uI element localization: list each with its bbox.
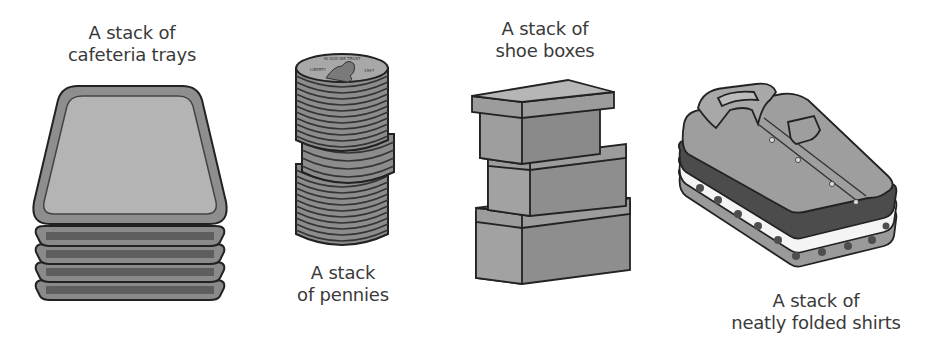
trays-caption-line-2: cafeteria trays xyxy=(52,44,212,66)
pennies-caption: A stack of pennies xyxy=(288,262,398,306)
penny-motto: IN GOD WE TRUST xyxy=(324,56,361,61)
shoe-boxes-illustration xyxy=(470,78,635,288)
folded-shirts-illustration xyxy=(672,80,902,276)
shirts-caption: A stack of neatly folded shirts xyxy=(716,290,916,334)
pennies-illustration: IN GOD WE TRUST LIBERTY 1997 xyxy=(290,52,400,252)
pennies-caption-line-1: A stack xyxy=(288,262,398,284)
shirts-caption-line-1: A stack of xyxy=(716,290,916,312)
shoe-boxes-caption: A stack of shoe boxes xyxy=(485,18,605,62)
pennies-caption-line-2: of pennies xyxy=(288,284,398,306)
shoe-boxes-caption-line-2: shoe boxes xyxy=(485,40,605,62)
shoe-boxes-caption-line-1: A stack of xyxy=(485,18,605,40)
trays-caption: A stack of cafeteria trays xyxy=(52,22,212,66)
shirts-caption-line-2: neatly folded shirts xyxy=(716,312,916,334)
cafeteria-trays-illustration xyxy=(30,82,230,304)
penny-liberty: LIBERTY xyxy=(310,67,327,72)
penny-year: 1997 xyxy=(364,68,375,73)
trays-caption-line-1: A stack of xyxy=(52,22,212,44)
